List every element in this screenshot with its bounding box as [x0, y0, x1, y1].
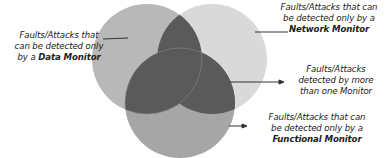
- label-prefix: by a: [17, 52, 38, 62]
- label-line: be detected only by a: [270, 13, 388, 24]
- label-line: Faults/Attacks that can: [270, 2, 388, 13]
- label-line: can be detected only: [6, 41, 112, 52]
- functional-arrow-head: [242, 124, 247, 128]
- label-line: be detected only by a: [252, 123, 382, 134]
- label-line: by a Data Monitor: [6, 52, 112, 63]
- functional-monitor-label: Faults/Attacks that can be detected only…: [252, 112, 382, 145]
- label-line: Faults/Attacks that can: [252, 112, 382, 123]
- label-emphasis: Network Monitor: [289, 24, 369, 34]
- label-line: Faults/Attacks that: [6, 30, 112, 41]
- network-monitor-label: Faults/Attacks that can be detected only…: [270, 2, 388, 35]
- label-emphasis: Data Monitor: [38, 52, 100, 62]
- label-line: Network Monitor: [270, 24, 388, 35]
- label-emphasis: Functional Monitor: [272, 134, 361, 144]
- data-monitor-label: Faults/Attacks that can be detected only…: [6, 30, 112, 63]
- label-line: Faults/Attacks: [288, 64, 384, 75]
- label-line: Functional Monitor: [252, 134, 382, 145]
- label-line: detected by more: [288, 75, 384, 86]
- multiple-monitors-label: Faults/Attacks detected by more than one…: [288, 64, 384, 97]
- label-line: than one Monitor: [288, 86, 384, 97]
- multi-arrow-head: [279, 80, 284, 84]
